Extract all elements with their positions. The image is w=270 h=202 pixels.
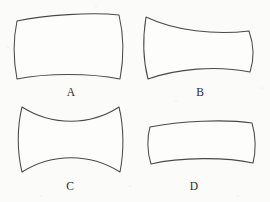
shape-group-a: A (14, 14, 123, 98)
figure-page: A B C D (0, 0, 270, 202)
shape-group-b: B (144, 17, 253, 98)
shape-d-outline (148, 121, 255, 164)
shape-b-label: B (196, 86, 204, 98)
shapes-figure: A B C D (0, 0, 270, 202)
paper-speck (238, 196, 239, 197)
shape-b-outline (144, 17, 253, 79)
shape-d-label: D (190, 180, 198, 192)
paper-speck (96, 6, 97, 7)
paper-speck (41, 196, 42, 197)
shape-c-outline (18, 107, 123, 172)
shape-group-c: C (18, 107, 123, 192)
shape-c-label: C (66, 180, 74, 192)
paper-speck (8, 47, 9, 48)
shape-a-label: A (67, 86, 76, 98)
paper-speck (130, 186, 131, 187)
shape-group-d: D (148, 121, 255, 192)
paper-speck (262, 88, 263, 89)
paper-speck (176, 101, 177, 102)
shape-a-outline (14, 14, 123, 79)
